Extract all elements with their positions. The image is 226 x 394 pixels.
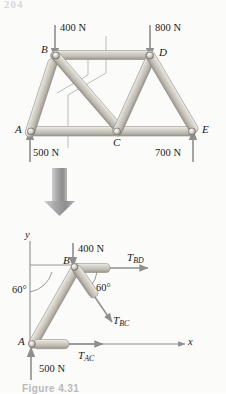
tac-subscript: AC <box>84 354 94 363</box>
fbd-angle-label-left: 60° <box>12 285 27 296</box>
member-CE <box>115 127 195 137</box>
truss-joint-label-A: A <box>15 124 22 135</box>
pin-A <box>28 128 35 135</box>
member-DE <box>144 49 200 135</box>
fbd-force-label-TAC: TAC <box>78 350 94 363</box>
fbd-pin-B <box>71 264 78 271</box>
fbd-force-label-TBC: TBC <box>113 315 129 328</box>
member-CD <box>111 53 156 138</box>
tbd-subscript: BD <box>133 256 144 265</box>
fbd-group <box>27 241 185 380</box>
pin-C <box>114 128 121 135</box>
truss-load-label-800N: 800 N <box>155 23 181 34</box>
fbd-member-AC-stub <box>33 340 69 349</box>
member-AC <box>28 127 119 137</box>
fbd-angle-label-right: 60° <box>96 283 111 294</box>
truss-load-label-400N: 400 N <box>60 23 86 34</box>
fbd-pin-A <box>29 341 36 348</box>
truss-group <box>24 25 200 162</box>
member-BD <box>53 51 152 60</box>
truss-joint-label-D: D <box>159 47 167 58</box>
truss-joint-label-C: C <box>113 137 120 148</box>
truss-joint-label-B: B <box>41 44 48 55</box>
pin-E <box>189 128 196 135</box>
fbd-force-label-500N: 500 N <box>39 364 65 375</box>
fbd-force-label-400N: 400 N <box>78 244 104 255</box>
figure-caption: Figure 4.31 <box>22 383 79 394</box>
fbd-joint-label-B: B <box>63 255 70 266</box>
angle-arc-left <box>30 272 52 292</box>
fbd-y-axis-label: y <box>25 230 30 241</box>
fbd-x-axis-label: x <box>188 337 193 348</box>
down-arrow <box>44 168 75 216</box>
truss-reaction-label-700N: 700 N <box>155 148 181 159</box>
fbd-force-label-TBD: TBD <box>127 252 144 265</box>
truss-joint-label-E: E <box>202 124 209 135</box>
fbd-joint-label-A: A <box>18 336 25 347</box>
fbd-member-AB <box>27 262 82 350</box>
pin-B <box>53 52 60 59</box>
truss-reaction-label-500N: 500 N <box>33 148 59 159</box>
tbc-subscript: BC <box>119 319 129 328</box>
member-AB <box>24 57 58 138</box>
pin-D <box>147 52 154 59</box>
